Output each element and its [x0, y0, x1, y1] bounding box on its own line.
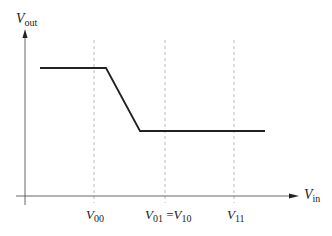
- y-axis-label: Vout: [16, 12, 37, 28]
- tick-label-v01-v10: V01 =V10: [145, 208, 192, 224]
- transfer-curve: [40, 68, 265, 131]
- tick-label-v11: V11: [227, 208, 245, 224]
- x-axis-arrow-icon: [289, 194, 299, 199]
- x-axis-label: Vin: [304, 188, 320, 204]
- transfer-characteristic-plot: [0, 0, 332, 236]
- y-axis-arrow-icon: [23, 29, 28, 38]
- tick-label-v00: V00: [86, 208, 104, 224]
